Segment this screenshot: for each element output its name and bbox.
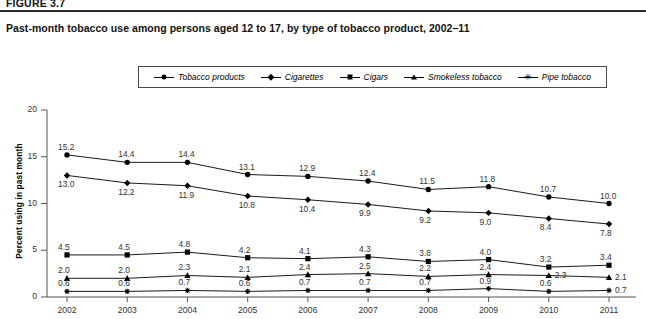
series-line-smokeless-tobacco (67, 274, 609, 279)
x-tick-label: 2010 (529, 305, 569, 315)
data-point-tobacco-products-2007 (365, 178, 370, 183)
data-label: 13.0 (58, 179, 74, 189)
x-tick-label: 2008 (408, 305, 448, 315)
data-label: 13.1 (239, 162, 255, 172)
data-label: 0.7 (359, 277, 371, 287)
y-tick-label: 15 (11, 151, 37, 161)
data-point-cigars-2010 (546, 264, 551, 269)
data-label: 11.8 (480, 174, 496, 184)
data-label: 4.2 (239, 245, 251, 255)
data-label: 3.4 (600, 252, 612, 262)
data-point-tobacco-products-2008 (426, 187, 431, 192)
data-point-cigarettes-2005 (244, 193, 250, 199)
data-point-cigarettes-2008 (425, 208, 431, 214)
data-label: 4.0 (480, 247, 492, 257)
data-label: 0.6 (239, 278, 251, 288)
data-point-tobacco-products-2010 (546, 194, 551, 199)
data-label: 2.2 (419, 263, 431, 273)
data-label: 10.4 (299, 204, 315, 214)
data-label: 2.1 (615, 272, 627, 282)
data-point-cigars-2007 (366, 254, 371, 259)
y-tick-label: 20 (11, 104, 37, 114)
data-label: 4.1 (299, 246, 311, 256)
data-label: 12.9 (299, 163, 315, 173)
data-label: 9.9 (359, 208, 371, 218)
data-point-tobacco-products-2004 (185, 160, 190, 165)
x-tick-label: 2004 (167, 305, 207, 315)
data-label: 12.4 (359, 168, 375, 178)
data-label: 2.3 (555, 270, 567, 280)
data-point-tobacco-products-2009 (486, 184, 491, 189)
x-tick-label: 2011 (589, 305, 629, 315)
data-label: 4.8 (178, 239, 190, 249)
data-point-cigarettes-2006 (305, 197, 311, 203)
data-label: 12.2 (118, 187, 134, 197)
series-line-tobacco-products (67, 155, 609, 204)
data-label: 9.0 (480, 217, 492, 227)
data-point-cigars-2002 (64, 252, 69, 257)
data-label: 2.1 (239, 264, 251, 274)
data-label: 7.8 (600, 228, 612, 238)
data-point-cigars-2006 (305, 256, 310, 261)
data-label: 9.2 (419, 215, 431, 225)
data-point-cigarettes-2009 (485, 210, 491, 216)
data-point-cigarettes-2011 (606, 221, 612, 227)
chart-svg (0, 0, 646, 319)
chart-plot-area: Percent using in past month 051015202002… (0, 0, 646, 319)
data-label: 8.4 (540, 222, 552, 232)
data-point-cigars-2004 (185, 250, 190, 255)
y-tick-label: 5 (11, 244, 37, 254)
data-point-cigars-2011 (606, 263, 611, 268)
data-label: 10.7 (540, 184, 556, 194)
x-tick-label: 2006 (288, 305, 328, 315)
x-tick-label: 2005 (228, 305, 268, 315)
x-tick-label: 2009 (469, 305, 509, 315)
y-tick-label: 10 (11, 198, 37, 208)
data-point-cigars-2003 (125, 252, 130, 257)
data-label: 0.6 (58, 278, 70, 288)
data-label: 2.0 (118, 265, 130, 275)
data-label: 10.0 (600, 191, 616, 201)
data-point-cigarettes-2003 (124, 180, 130, 186)
data-label: 0.6 (540, 278, 552, 288)
y-tick-label: 0 (11, 291, 37, 301)
data-label: 10.8 (239, 200, 255, 210)
data-point-tobacco-products-2005 (245, 172, 250, 177)
data-label: 2.0 (58, 265, 70, 275)
data-label: 0.7 (615, 285, 627, 295)
data-label: 2.4 (299, 262, 311, 272)
series-line-cigars (67, 252, 609, 267)
data-point-cigarettes-2007 (365, 201, 371, 207)
data-label: 14.4 (178, 149, 194, 159)
data-label: 4.3 (359, 244, 371, 254)
data-point-cigars-2005 (245, 255, 250, 260)
data-label: 0.6 (118, 278, 130, 288)
data-label: 0.7 (419, 277, 431, 287)
x-tick-label: 2002 (47, 305, 87, 315)
series-line-cigarettes (67, 175, 609, 224)
data-label: 3.2 (540, 254, 552, 264)
data-label: 0.9 (480, 276, 492, 286)
data-point-cigarettes-2010 (546, 215, 552, 221)
data-label: 2.3 (178, 262, 190, 272)
data-label: 3.8 (419, 248, 431, 258)
data-label: 0.7 (178, 277, 190, 287)
data-label: 11.9 (178, 190, 194, 200)
data-label: 2.5 (359, 261, 371, 271)
data-point-cigarettes-2004 (184, 183, 190, 189)
data-point-tobacco-products-2002 (64, 152, 69, 157)
x-tick-label: 2003 (107, 305, 147, 315)
data-label: 15.2 (58, 142, 74, 152)
data-label: 14.4 (118, 149, 134, 159)
data-point-tobacco-products-2003 (125, 160, 130, 165)
data-point-cigarettes-2002 (64, 172, 70, 178)
data-label: 2.4 (480, 262, 492, 272)
data-label: 11.5 (419, 176, 435, 186)
data-label: 4.5 (58, 242, 70, 252)
data-point-tobacco-products-2011 (606, 201, 611, 206)
series-line-pipe-tobacco (67, 289, 609, 292)
x-tick-label: 2007 (348, 305, 388, 315)
data-label: 0.7 (299, 277, 311, 287)
data-point-tobacco-products-2006 (305, 174, 310, 179)
data-label: 4.5 (118, 242, 130, 252)
